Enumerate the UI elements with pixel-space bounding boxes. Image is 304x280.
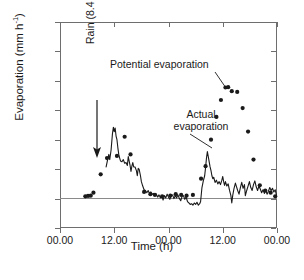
x-tick bbox=[114, 228, 115, 233]
y-axis-title-exponent: -1 bbox=[11, 17, 20, 24]
data-point bbox=[251, 157, 255, 161]
rain-annotation: Rain (8.4 mm) bbox=[84, 0, 96, 44]
data-point bbox=[203, 164, 207, 168]
actual-evaporation-label-line2: evaporation bbox=[163, 120, 239, 132]
data-point bbox=[235, 90, 239, 94]
data-point bbox=[174, 192, 178, 196]
rain-annotation-label: Rain (8.4 mm) bbox=[84, 0, 96, 44]
data-point bbox=[123, 135, 127, 139]
x-tick-label: 12.00 bbox=[92, 235, 136, 246]
y-tick-right bbox=[271, 228, 276, 229]
data-point bbox=[160, 194, 164, 198]
data-point bbox=[230, 89, 234, 93]
data-point bbox=[142, 190, 146, 194]
rain-arrow-icon bbox=[90, 100, 104, 160]
data-point bbox=[179, 193, 183, 197]
data-point bbox=[91, 191, 95, 195]
x-tick-label: 00.00 bbox=[38, 235, 82, 246]
x-tick-top bbox=[277, 22, 278, 27]
x-tick bbox=[223, 228, 224, 233]
x-tick bbox=[277, 228, 278, 233]
data-point bbox=[199, 177, 203, 181]
data-point bbox=[258, 183, 262, 187]
x-tick bbox=[60, 228, 61, 233]
actual-evaporation-line bbox=[106, 127, 276, 205]
evaporation-chart: Evaporation (mm h-1) Time (h) 1.21.00.80… bbox=[0, 0, 304, 280]
x-tick-label: 12.00 bbox=[201, 235, 245, 246]
data-point bbox=[226, 85, 230, 89]
actual-evaporation-label: Actual evaporation bbox=[163, 108, 239, 132]
data-point bbox=[263, 188, 267, 192]
data-point bbox=[209, 138, 213, 142]
data-point bbox=[99, 172, 103, 176]
data-point bbox=[168, 194, 172, 198]
data-point bbox=[184, 194, 188, 198]
data-point bbox=[246, 130, 250, 134]
potential-evaporation-label: Potential evaporation bbox=[110, 58, 209, 70]
data-point bbox=[273, 194, 277, 198]
actual-evaporation-label-line1: Actual bbox=[163, 108, 239, 120]
data-point bbox=[191, 193, 195, 197]
data-point bbox=[148, 192, 152, 196]
data-point bbox=[219, 98, 223, 102]
potential-evaporation-points bbox=[83, 85, 277, 198]
x-tick-label: 00.00 bbox=[255, 235, 299, 246]
data-point bbox=[115, 154, 119, 158]
y-axis-title: Evaporation (mm h-1) bbox=[11, 7, 25, 127]
data-point bbox=[153, 193, 157, 197]
data-point bbox=[269, 191, 273, 195]
data-point bbox=[105, 156, 109, 160]
data-point bbox=[241, 106, 245, 110]
x-tick-label: 00.00 bbox=[147, 235, 191, 246]
x-tick bbox=[169, 228, 170, 233]
y-axis-title-tail: ) bbox=[13, 13, 25, 17]
data-point bbox=[128, 152, 132, 156]
y-axis-title-main: Evaporation (mm h bbox=[13, 24, 25, 121]
